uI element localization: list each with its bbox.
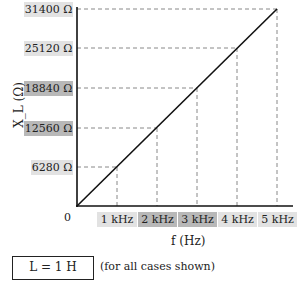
x-tick-label: 1 kHz xyxy=(97,212,137,227)
inductance-note: (for all cases shown) xyxy=(100,260,215,273)
y-tick-label: 12560 Ω xyxy=(24,121,73,136)
x-axis-title: f (Hz) xyxy=(171,234,205,248)
data-line xyxy=(77,9,277,206)
y-tick-label: 31400 Ω xyxy=(24,2,73,17)
x-tick-label: 4 kHz xyxy=(218,212,257,227)
x-tick-label: 2 kHz xyxy=(138,212,177,227)
y-tick-label: 18840 Ω xyxy=(24,81,73,96)
y-tick-label: 25120 Ω xyxy=(24,41,73,56)
x-tick-label: 5 kHz xyxy=(258,212,297,227)
y-axis-title: X_L (Ω) xyxy=(12,80,26,130)
y-tick-label: 6280 Ω xyxy=(31,160,73,175)
inductance-box: L = 1 H xyxy=(12,256,94,280)
origin-label: 0 xyxy=(64,211,71,224)
x-tick-label: 3 kHz xyxy=(178,212,217,227)
